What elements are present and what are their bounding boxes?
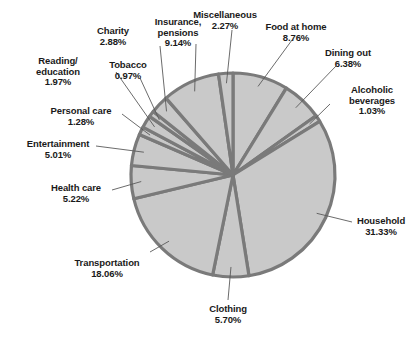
label-line-1: Dining out <box>308 48 388 59</box>
label-line-3: 9.14% <box>142 38 214 49</box>
label-line-2: 2.27% <box>180 21 270 32</box>
label-line-1: Entertainment <box>14 139 102 150</box>
label-line-2: 18.06% <box>62 269 152 280</box>
label-line-2: 0.97% <box>96 71 160 82</box>
label-line-2: 5.70% <box>192 315 264 326</box>
label-charity: Charity 2.88% <box>82 26 144 47</box>
label-dining-out: Dining out 6.38% <box>308 48 388 69</box>
label-line-1: Household <box>345 216 417 227</box>
pie-chart: Food at home 8.76% Dining out 6.38% Alco… <box>0 0 419 339</box>
label-line-2: 31.33% <box>345 227 417 238</box>
label-line-2: 5.01% <box>14 150 102 161</box>
label-line-3: 1.03% <box>334 106 410 117</box>
label-line-2: 6.38% <box>308 59 388 70</box>
label-line-3: 1.97% <box>22 77 94 88</box>
label-line-1: Charity <box>82 26 144 37</box>
label-line-2: 8.76% <box>252 33 340 44</box>
leader-line-food-at-home <box>258 40 292 86</box>
label-alcoholic-beverages: Alcoholic beverages 1.03% <box>334 85 410 117</box>
label-line-2: 5.22% <box>38 194 114 205</box>
label-reading-education: Reading/ education 1.97% <box>22 56 94 88</box>
label-line-2: 1.28% <box>38 117 124 128</box>
label-line-1: Personal care <box>38 106 124 117</box>
label-entertainment: Entertainment 5.01% <box>14 139 102 160</box>
label-miscellaneous: Miscellaneous 2.27% <box>180 10 270 31</box>
pie-slices <box>131 73 335 277</box>
label-clothing: Clothing 5.70% <box>192 304 264 325</box>
label-line-1: Clothing <box>192 304 264 315</box>
label-line-1: Tobacco <box>96 60 160 71</box>
leader-line-dining-out <box>296 66 336 108</box>
label-personal-care: Personal care 1.28% <box>38 106 124 127</box>
label-transportation: Transportation 18.06% <box>62 258 152 279</box>
label-line-1: Transportation <box>62 258 152 269</box>
label-line-1: Health care <box>38 183 114 194</box>
label-line-1: Miscellaneous <box>180 10 270 21</box>
label-line-1: Reading/ <box>22 56 94 67</box>
label-health-care: Health care 5.22% <box>38 183 114 204</box>
label-household: Household 31.33% <box>345 216 417 237</box>
label-line-2: 2.88% <box>82 37 144 48</box>
label-tobacco: Tobacco 0.97% <box>96 60 160 81</box>
label-line-1: Alcoholic <box>334 85 410 96</box>
